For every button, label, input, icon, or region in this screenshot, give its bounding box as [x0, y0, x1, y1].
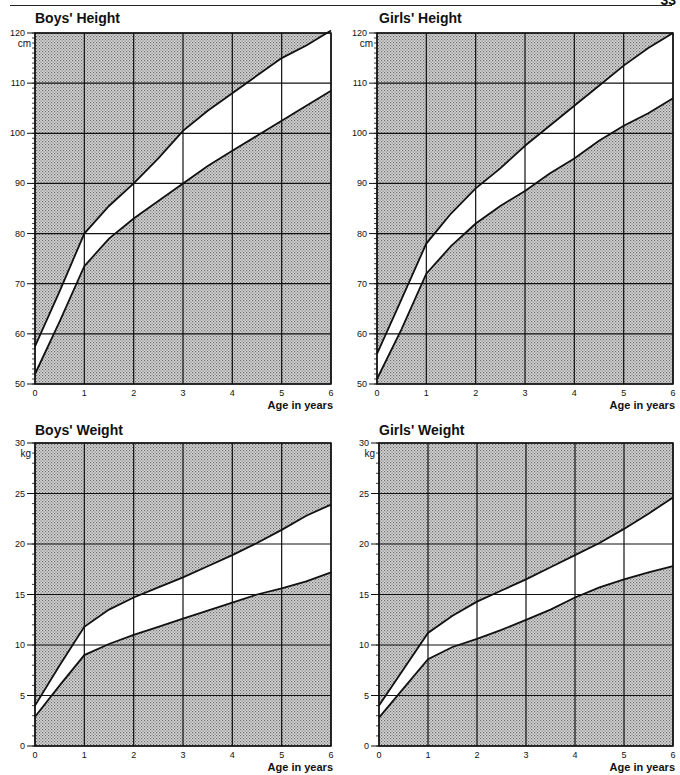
x-tick-label: 4 — [230, 750, 235, 760]
y-tick-label: 90 — [357, 178, 367, 188]
y-tick-label: 80 — [15, 229, 25, 239]
y-tick-label: 50 — [357, 379, 367, 389]
x-tick-label: 1 — [424, 388, 429, 398]
y-tick-label: 60 — [15, 329, 25, 339]
y-tick-label: 30 — [359, 438, 369, 448]
y-tick-label: 110 — [11, 78, 25, 88]
x-tick-label: 4 — [572, 388, 577, 398]
x-axis-label: Age in years — [268, 399, 333, 411]
x-tick-label: 0 — [374, 388, 379, 398]
y-tick-label: 10 — [15, 640, 25, 650]
y-tick-label: 100 — [10, 128, 25, 138]
x-tick-label: 4 — [230, 388, 235, 398]
x-tick-label: 5 — [279, 750, 284, 760]
y-tick-label: 15 — [15, 590, 25, 600]
x-tick-label: 1 — [82, 750, 87, 760]
boys-weight-chart: 051015202530kg0123456Age in years — [15, 438, 334, 773]
x-axis-label: Age in years — [268, 761, 333, 773]
x-tick-label: 0 — [32, 750, 37, 760]
y-tick-label: 25 — [15, 489, 25, 499]
x-tick-label: 2 — [131, 388, 136, 398]
x-tick-label: 3 — [180, 750, 185, 760]
x-tick-label: 2 — [473, 388, 478, 398]
x-tick-label: 4 — [572, 750, 577, 760]
y-tick-label: 10 — [359, 640, 369, 650]
x-axis-label: Age in years — [610, 399, 675, 411]
y-tick-label: 60 — [357, 329, 367, 339]
y-unit-label: kg — [20, 448, 31, 459]
y-tick-label: 20 — [359, 539, 369, 549]
x-tick-label: 6 — [670, 388, 675, 398]
growth-charts: 5060708090100110120cm0123456Age in years… — [0, 0, 680, 775]
y-tick-label: 100 — [352, 128, 367, 138]
x-tick-label: 0 — [376, 750, 381, 760]
y-tick-label: 50 — [15, 379, 25, 389]
y-tick-label: 120 — [10, 28, 25, 38]
y-tick-label: 70 — [357, 279, 367, 289]
x-tick-label: 5 — [621, 750, 626, 760]
x-tick-label: 6 — [328, 388, 333, 398]
y-tick-label: 110 — [353, 78, 367, 88]
y-tick-label: 70 — [15, 279, 25, 289]
x-tick-label: 3 — [522, 388, 527, 398]
x-tick-label: 3 — [523, 750, 528, 760]
x-tick-label: 2 — [131, 750, 136, 760]
y-unit-label: kg — [364, 448, 375, 459]
x-axis-label: Age in years — [610, 761, 675, 773]
girls-height-chart: 5060708090100110120cm0123456Age in years — [352, 28, 676, 411]
y-tick-label: 5 — [364, 691, 369, 701]
y-tick-label: 90 — [15, 178, 25, 188]
y-tick-label: 15 — [359, 590, 369, 600]
x-tick-label: 2 — [474, 750, 479, 760]
y-tick-label: 30 — [15, 438, 25, 448]
x-tick-label: 5 — [279, 388, 284, 398]
y-tick-label: 5 — [20, 691, 25, 701]
x-tick-label: 6 — [328, 750, 333, 760]
girls-weight-chart: 051015202530kg0123456Age in years — [359, 438, 676, 773]
y-tick-label: 0 — [364, 741, 369, 751]
x-tick-label: 3 — [180, 388, 185, 398]
x-tick-label: 1 — [82, 388, 87, 398]
y-tick-label: 120 — [352, 28, 367, 38]
x-tick-label: 0 — [32, 388, 37, 398]
y-tick-label: 0 — [20, 741, 25, 751]
y-tick-label: 80 — [357, 229, 367, 239]
x-tick-label: 1 — [425, 750, 430, 760]
y-tick-label: 25 — [359, 489, 369, 499]
x-tick-label: 6 — [670, 750, 675, 760]
y-unit-label: cm — [360, 38, 373, 49]
boys-height-chart: 5060708090100110120cm0123456Age in years — [10, 28, 334, 411]
y-unit-label: cm — [18, 38, 31, 49]
x-tick-label: 5 — [621, 388, 626, 398]
y-tick-label: 20 — [15, 539, 25, 549]
